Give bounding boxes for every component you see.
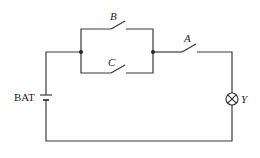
wire-b-left <box>81 29 111 52</box>
switch-c-label: C <box>108 56 116 68</box>
switch-b-icon <box>111 21 125 29</box>
wire-bottom <box>46 100 232 141</box>
battery-label: BAT <box>14 91 35 103</box>
wire-b-right <box>126 29 153 52</box>
lamp-icon <box>226 93 238 105</box>
switch-a-icon <box>182 44 196 52</box>
lamp-label: Y <box>241 93 249 105</box>
junction-left-icon <box>79 50 83 54</box>
switch-b-label: B <box>110 10 117 22</box>
circuit-diagram: BAT B C A Y <box>0 0 260 158</box>
wire-left-top <box>46 52 81 95</box>
battery-icon <box>40 95 52 100</box>
switch-a-label: A <box>183 32 191 44</box>
wire-c-right <box>126 52 153 73</box>
wire-c-left <box>81 52 111 73</box>
wire-a-right <box>197 52 232 93</box>
